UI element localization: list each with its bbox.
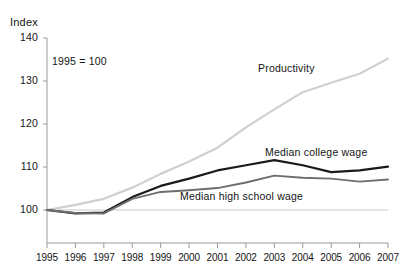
x-tick-label: 1999 xyxy=(146,252,176,263)
x-tick-label: 2002 xyxy=(231,252,261,263)
x-tick-label: 1996 xyxy=(60,252,90,263)
series-line-median-college-wage xyxy=(47,160,388,213)
x-tick-label: 1995 xyxy=(32,252,62,263)
y-tick-label: 120 xyxy=(8,117,38,129)
series-label-median-college-wage: Median college wage xyxy=(265,146,367,158)
x-tick-label: 2004 xyxy=(288,252,318,263)
x-tick-label: 2000 xyxy=(174,252,204,263)
y-tick-label: 100 xyxy=(8,203,38,215)
series-label-productivity: Productivity xyxy=(258,62,315,74)
x-tick-label: 2001 xyxy=(203,252,233,263)
y-tick-label: 130 xyxy=(8,74,38,86)
x-tick-label: 1998 xyxy=(117,252,147,263)
y-tick-label: 140 xyxy=(8,31,38,43)
x-tick-label: 2007 xyxy=(373,252,403,263)
x-tick-label: 2006 xyxy=(345,252,375,263)
series-label-median-high-school-wage: Median high school wage xyxy=(180,190,303,202)
x-tick-label: 2005 xyxy=(316,252,346,263)
y-tick-label: 110 xyxy=(8,160,38,172)
x-tick-label: 2003 xyxy=(259,252,289,263)
x-tick-label: 1997 xyxy=(89,252,119,263)
